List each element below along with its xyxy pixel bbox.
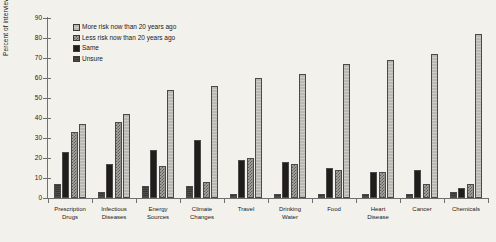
y-axis-tick-value: 0 bbox=[20, 195, 42, 202]
x-axis-category-label: Drinking Water bbox=[268, 206, 312, 221]
bar bbox=[159, 166, 166, 198]
bar bbox=[282, 162, 289, 198]
y-axis-tick-label: 40 bbox=[16, 115, 42, 123]
legend-swatch-icon bbox=[73, 24, 80, 31]
y-axis-title: Percent of interviewees bbox=[2, 0, 9, 56]
y-axis-tick-value: 80 bbox=[20, 35, 42, 42]
x-axis-category-label: Food bbox=[312, 206, 356, 214]
y-axis-tick-label: 0 bbox=[16, 195, 42, 203]
bar bbox=[326, 168, 333, 198]
legend-label: More risk now than 20 years ago bbox=[82, 24, 176, 31]
y-axis-tick-label: 60 bbox=[16, 75, 42, 83]
bar bbox=[475, 34, 482, 198]
x-axis-category-label: Heart Disease bbox=[356, 206, 400, 221]
bar bbox=[255, 78, 262, 198]
bar-group bbox=[224, 18, 268, 198]
bar-group bbox=[356, 18, 400, 198]
bar bbox=[79, 124, 86, 198]
y-axis-tick-label: 20 bbox=[16, 155, 42, 163]
y-axis-tick-label: 10 bbox=[16, 175, 42, 183]
bar-group bbox=[400, 18, 444, 198]
bar bbox=[142, 186, 149, 198]
bar bbox=[54, 184, 61, 198]
y-axis-tick-label: 30 bbox=[16, 135, 42, 143]
y-axis-tick-value: 10 bbox=[20, 175, 42, 182]
y-axis-tick-value: 50 bbox=[20, 95, 42, 102]
bar bbox=[194, 140, 201, 198]
bar bbox=[458, 188, 465, 198]
x-axis-tick bbox=[312, 198, 313, 203]
y-axis-tick-value: 40 bbox=[20, 115, 42, 122]
bar bbox=[186, 186, 193, 198]
x-axis-tick bbox=[48, 198, 49, 203]
bar bbox=[318, 194, 325, 198]
y-axis-tick-value: 70 bbox=[20, 55, 42, 62]
legend-label: Less risk now than 20 years ago bbox=[82, 35, 175, 42]
bar bbox=[115, 122, 122, 198]
y-axis-tick-value: 30 bbox=[20, 135, 42, 142]
bar bbox=[387, 60, 394, 198]
legend-item[interactable]: Same bbox=[73, 43, 176, 54]
legend-label: Same bbox=[82, 45, 99, 52]
x-axis-tick bbox=[224, 198, 225, 203]
x-axis-tick bbox=[268, 198, 269, 203]
bar bbox=[335, 170, 342, 198]
bar bbox=[247, 158, 254, 198]
bar bbox=[362, 194, 369, 198]
bar bbox=[467, 184, 474, 198]
legend-swatch-icon bbox=[73, 56, 80, 63]
bar bbox=[423, 184, 430, 198]
bar-group bbox=[312, 18, 356, 198]
y-axis-tick-value: 60 bbox=[20, 75, 42, 82]
bar bbox=[123, 114, 130, 198]
bar bbox=[431, 54, 438, 198]
x-axis-tick bbox=[444, 198, 445, 203]
x-axis-category-label: Climate Changes bbox=[180, 206, 224, 221]
x-axis-category-label: Chemicals bbox=[444, 206, 488, 214]
bar bbox=[343, 64, 350, 198]
legend-swatch-icon bbox=[73, 45, 80, 52]
bar bbox=[167, 90, 174, 198]
bar bbox=[203, 182, 210, 198]
bar-chart: Percent of interviewees 0102030405060708… bbox=[0, 0, 496, 242]
x-axis-tick bbox=[92, 198, 93, 203]
y-axis-tick-label: 90 bbox=[16, 15, 42, 23]
bar bbox=[238, 160, 245, 198]
y-axis-tick-label: 50 bbox=[16, 95, 42, 103]
legend-item[interactable]: More risk now than 20 years ago bbox=[73, 22, 176, 33]
bar-group bbox=[444, 18, 488, 198]
bar bbox=[370, 172, 377, 198]
bar bbox=[150, 150, 157, 198]
x-axis-category-label: Prescription Drugs bbox=[48, 206, 92, 221]
legend-item[interactable]: Unsure bbox=[73, 54, 176, 65]
y-axis-tick-label: 70 bbox=[16, 55, 42, 63]
x-axis-category-label: Energy Sources bbox=[136, 206, 180, 221]
chart-legend: More risk now than 20 years agoLess risk… bbox=[73, 22, 176, 64]
x-axis-category-label: Travel bbox=[224, 206, 268, 214]
x-axis-tick bbox=[356, 198, 357, 203]
x-axis-category-label: Cancer bbox=[400, 206, 444, 214]
bar bbox=[211, 86, 218, 198]
x-axis-category-label: Infectious Diseases bbox=[92, 206, 136, 221]
y-axis-tick-label: 80 bbox=[16, 35, 42, 43]
bar bbox=[414, 170, 421, 198]
bar-group bbox=[268, 18, 312, 198]
bar bbox=[299, 74, 306, 198]
bar bbox=[274, 194, 281, 198]
legend-item[interactable]: Less risk now than 20 years ago bbox=[73, 33, 176, 44]
bar bbox=[106, 164, 113, 198]
x-axis-tick bbox=[488, 198, 489, 203]
y-axis-tick-value: 90 bbox=[20, 15, 42, 22]
bar bbox=[450, 192, 457, 198]
y-axis-tick-value: 20 bbox=[20, 155, 42, 162]
bar bbox=[230, 194, 237, 198]
bar bbox=[98, 192, 105, 198]
bar bbox=[406, 194, 413, 198]
bar bbox=[379, 172, 386, 198]
bar bbox=[71, 132, 78, 198]
x-axis-tick bbox=[400, 198, 401, 203]
bar bbox=[291, 164, 298, 198]
bar-group bbox=[180, 18, 224, 198]
x-axis-tick bbox=[136, 198, 137, 203]
x-axis-tick bbox=[180, 198, 181, 203]
